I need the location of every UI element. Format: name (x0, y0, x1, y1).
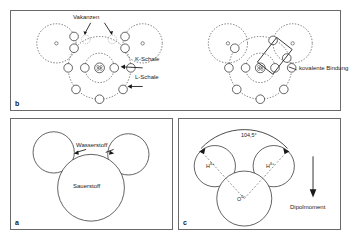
water-molecule-figure: Vakanzen K-Schale L-Schale kovalente Bin… (0, 0, 351, 240)
label-bond-angle: 104,5° (241, 133, 257, 139)
oxygen-charge: δ− (241, 194, 246, 199)
l-electron-4-left (95, 95, 104, 104)
hydrogen-left-charge: δ+ (210, 161, 215, 166)
label-kovalente-bindung: kovalente Bindung (299, 65, 348, 71)
vacancy-2-left (108, 35, 117, 44)
panel-a-space-filling-model: Wasserstoff Sauerstoff a (10, 118, 173, 230)
l-electron-7-right (269, 36, 278, 45)
k-electron-1-right (241, 64, 250, 73)
label-hydrogen-left: Hδ+ (206, 162, 214, 169)
l-electron-8-right (282, 54, 291, 63)
l-electron-5-left (119, 85, 128, 94)
nucleus-left (95, 63, 105, 73)
panel-letter-c: c (183, 219, 187, 226)
label-l-schale: L-Schale (135, 74, 159, 80)
panel-a-drawing (11, 119, 172, 229)
l-electron-3-right (232, 85, 241, 94)
h-left-shell-right-atom (208, 24, 247, 63)
dipole-arrow (310, 156, 317, 197)
label-k-schale: K-Schale (135, 56, 159, 62)
l-electron-2-right (225, 64, 234, 73)
panel-b-atomic-model: Vakanzen K-Schale L-Schale kovalente Bin… (10, 10, 341, 111)
k-electron-1-left (81, 64, 90, 73)
panel-b-drawing (11, 11, 340, 110)
h-electron-left-atom (70, 32, 79, 41)
l-electron-1-left (70, 44, 79, 53)
panel-letter-a: a (15, 219, 19, 226)
panel-c-dipole-model: 104,5° Hδ+ Hδ+ Oδ− Dipolmoment c (178, 118, 341, 230)
hydrogen-right-charge: δ+ (270, 161, 275, 166)
h-electron-right-atom (121, 32, 130, 41)
l-electron-7-left (121, 44, 130, 53)
panel-c-drawing (179, 119, 340, 229)
l-electron-5-right (279, 85, 288, 94)
k-electron-2-left (110, 64, 119, 73)
vacancy-arrows (83, 23, 113, 35)
l-electron-2-left (64, 64, 73, 73)
h-right-shell-right-atom (273, 24, 312, 63)
l-electron-4-right (256, 95, 265, 104)
l-electron-3-left (72, 85, 81, 94)
label-wasserstoff: Wasserstoff (76, 142, 107, 148)
l-electron-1-right (230, 44, 239, 53)
label-dipolmoment: Dipolmoment (290, 204, 325, 210)
label-sauerstoff: Sauerstoff (73, 183, 100, 189)
label-oxygen: Oδ− (237, 195, 246, 202)
panel-letter-b: b (15, 100, 19, 107)
label-vakanzen: Vakanzen (73, 14, 99, 20)
label-hydrogen-right: Hδ+ (266, 162, 274, 169)
